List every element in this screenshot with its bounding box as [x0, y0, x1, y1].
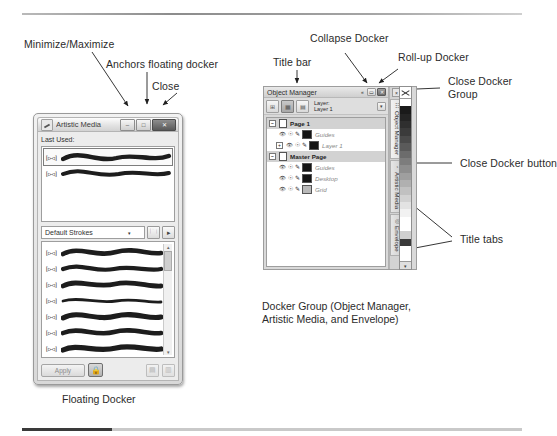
- palette-swatch[interactable]: [400, 158, 411, 165]
- minimize-maximize-button[interactable]: –: [120, 119, 135, 131]
- tree-leaf-row[interactable]: 👁 ☉ ✎ Guides: [267, 129, 385, 140]
- lock-button[interactable]: 🔒: [88, 363, 103, 377]
- docker-group[interactable]: Object Manager « ▭ ✕ ⊞: [263, 86, 417, 270]
- object-manager-tree[interactable]: − Page 1 👁 ☉ ✎ Guides + 👁: [266, 117, 386, 267]
- layer-manager-view-button[interactable]: ▦: [281, 100, 294, 113]
- eye-icon[interactable]: 👁: [279, 165, 286, 171]
- tree-leaf-row[interactable]: + 👁 ☉ ✎ Layer 1: [267, 140, 385, 151]
- palette-swatch[interactable]: [400, 195, 411, 202]
- list-item[interactable]: [▷◁]: [44, 340, 163, 356]
- floating-docker-window[interactable]: Artistic Media – □ ✕ Last Used: [▷◁]: [33, 113, 183, 385]
- tree-label: Page 1: [290, 120, 310, 127]
- tree-group-row[interactable]: − Master Page: [267, 151, 385, 162]
- print-icon[interactable]: ☉: [295, 143, 300, 149]
- expander-icon[interactable]: −: [269, 120, 276, 127]
- roll-up-docker-button[interactable]: ▭: [367, 88, 376, 96]
- layer-color-chip[interactable]: [302, 163, 312, 172]
- palette-swatch[interactable]: [400, 187, 411, 194]
- stroke-shape: [61, 357, 163, 358]
- anchor-button[interactable]: □: [136, 119, 151, 131]
- layer-color-chip[interactable]: [302, 174, 312, 183]
- caption-docker-group-line1: Docker Group (Object Manager,: [262, 300, 411, 313]
- docker-title-bar[interactable]: Object Manager « ▭ ✕: [264, 87, 388, 98]
- stroke-list-scrollbar[interactable]: ▴ ▾: [163, 244, 172, 355]
- close-button[interactable]: ✕: [152, 119, 176, 131]
- palette-swatch[interactable]: [400, 217, 411, 224]
- edit-pencil-icon[interactable]: ✎: [302, 143, 307, 149]
- eye-icon[interactable]: 👁: [279, 187, 286, 193]
- scroll-up-icon[interactable]: ▴: [167, 244, 170, 250]
- expander-icon[interactable]: +: [276, 142, 283, 149]
- print-icon[interactable]: ☉: [288, 187, 293, 193]
- palette-swatch[interactable]: [400, 224, 411, 231]
- collapse-docker-button[interactable]: «: [359, 88, 366, 96]
- print-icon[interactable]: ☉: [288, 132, 293, 138]
- browse-folder-button[interactable]: 🗀: [147, 226, 160, 239]
- tree-group-row[interactable]: − Page 1: [267, 118, 385, 129]
- docker-options-button[interactable]: ▾: [377, 102, 386, 111]
- tree-leaf-row[interactable]: 👁 ☉ ✎ Grid: [267, 184, 385, 195]
- palette-swatch[interactable]: [400, 180, 411, 187]
- palette-swatch[interactable]: [400, 99, 411, 106]
- stroke-list[interactable]: [▷◁] [▷◁] [▷◁]: [41, 241, 175, 358]
- list-item[interactable]: [▷◁]: [44, 356, 163, 358]
- new-master-layer-button[interactable]: ▤: [296, 100, 309, 113]
- eye-icon[interactable]: 👁: [279, 132, 286, 138]
- list-item[interactable]: [▷◁]: [44, 292, 163, 308]
- list-item[interactable]: [▷◁]: [44, 165, 172, 181]
- print-icon[interactable]: ☉: [288, 176, 293, 182]
- annotation-minimize-maximize: Minimize/Maximize: [24, 38, 114, 51]
- eye-icon[interactable]: 👁: [286, 143, 293, 149]
- no-color-swatch[interactable]: [400, 87, 411, 99]
- palette-swatch[interactable]: [400, 231, 411, 238]
- palette-swatch[interactable]: [400, 246, 411, 253]
- tree-leaf-row[interactable]: 👁 ☉ ✎ Desktop: [267, 173, 385, 184]
- stroke-category-select[interactable]: Default Strokes ▾: [41, 226, 145, 239]
- save-stroke-footer-button[interactable]: ▤: [146, 364, 159, 377]
- list-item[interactable]: [▷◁]: [44, 308, 163, 324]
- palette-swatch[interactable]: [400, 143, 411, 150]
- edit-pencil-icon[interactable]: ✎: [295, 132, 300, 138]
- list-item[interactable]: [▷◁]: [44, 244, 163, 260]
- palette-swatch[interactable]: [400, 121, 411, 128]
- last-used-list[interactable]: [▷◁] [▷◁]: [41, 146, 175, 222]
- tree-leaf-row[interactable]: 👁 ☉ ✎ Guides: [267, 162, 385, 173]
- save-icon: ▤: [149, 366, 156, 374]
- scrollbar-thumb[interactable]: [164, 251, 172, 271]
- layer-color-chip[interactable]: [302, 130, 312, 139]
- palette-swatch[interactable]: [400, 173, 411, 180]
- palette-scroll-button[interactable]: ▾: [400, 261, 411, 269]
- close-docker-group-button[interactable]: ✕: [377, 88, 386, 96]
- palette-swatch[interactable]: [400, 165, 411, 172]
- palette-swatch[interactable]: [400, 136, 411, 143]
- chevron-down-icon[interactable]: ▾: [111, 227, 144, 238]
- expander-icon[interactable]: −: [269, 153, 276, 160]
- delete-stroke-button[interactable]: ▥: [162, 364, 175, 377]
- palette-swatch[interactable]: [400, 239, 411, 246]
- palette-swatch[interactable]: [400, 151, 411, 158]
- print-icon[interactable]: ☉: [288, 165, 293, 171]
- palette-swatch[interactable]: [400, 209, 411, 216]
- layer-color-chip[interactable]: [309, 141, 319, 150]
- palette-swatch[interactable]: [400, 106, 411, 113]
- save-stroke-button[interactable]: ▸: [162, 226, 175, 239]
- floating-docker-title-bar[interactable]: Artistic Media – □ ✕: [37, 117, 179, 131]
- edit-pencil-icon[interactable]: ✎: [295, 165, 300, 171]
- color-palette-strip[interactable]: ▾: [399, 86, 412, 270]
- palette-swatch[interactable]: [400, 254, 411, 261]
- palette-swatch[interactable]: [400, 114, 411, 121]
- palette-swatch[interactable]: [400, 128, 411, 135]
- apply-button[interactable]: Apply: [41, 364, 85, 377]
- list-item[interactable]: [▷◁]: [44, 149, 172, 165]
- layer-color-chip[interactable]: [302, 185, 312, 194]
- scroll-down-icon[interactable]: ▾: [167, 349, 170, 355]
- list-item[interactable]: [▷◁]: [44, 276, 163, 292]
- edit-pencil-icon[interactable]: ✎: [295, 176, 300, 182]
- list-item[interactable]: [▷◁]: [44, 324, 163, 340]
- list-item[interactable]: [▷◁]: [44, 260, 163, 276]
- edit-pencil-icon[interactable]: ✎: [295, 187, 300, 193]
- eye-icon[interactable]: 👁: [279, 176, 286, 182]
- palette-swatch[interactable]: [400, 202, 411, 209]
- new-layer-button[interactable]: ⊞: [266, 100, 279, 113]
- nib-icon: [▷◁]: [45, 313, 58, 320]
